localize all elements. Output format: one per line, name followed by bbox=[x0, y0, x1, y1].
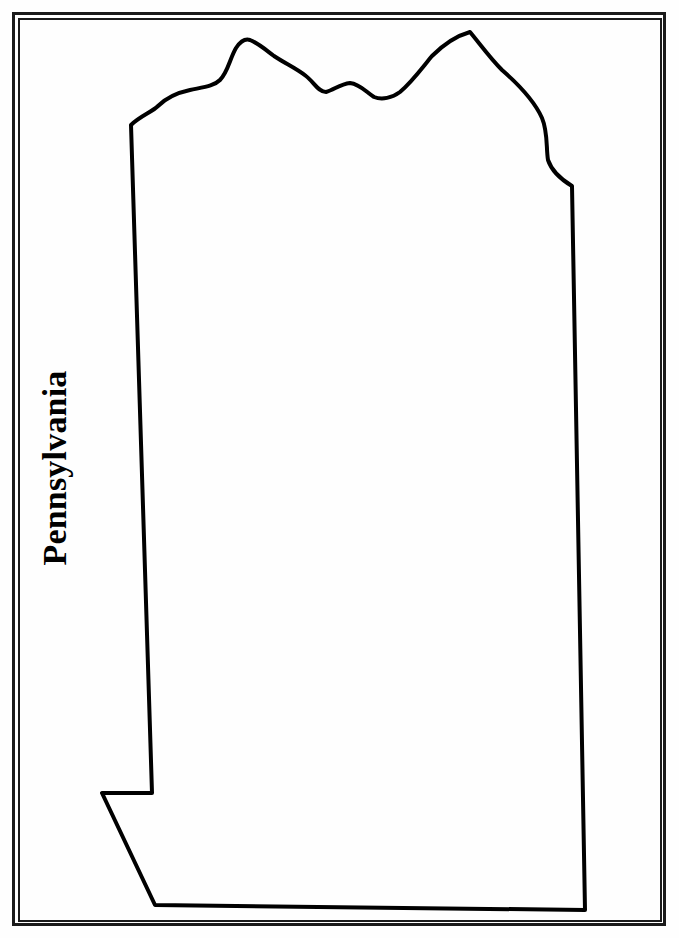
state-outline-map bbox=[0, 0, 679, 938]
worksheet-page: Pennsylvania bbox=[0, 0, 679, 938]
state-name-label: Pennsylvania bbox=[36, 370, 74, 565]
pennsylvania-outline-icon bbox=[102, 32, 585, 910]
